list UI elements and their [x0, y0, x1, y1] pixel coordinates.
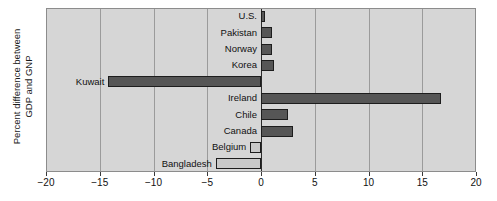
- bar-row: [46, 11, 476, 22]
- x-tick-label-20: 20: [470, 177, 481, 189]
- bar-row: [46, 76, 476, 87]
- bar-korea: [261, 60, 274, 71]
- x-tick-label--10: −10: [145, 177, 162, 189]
- bar-bangladesh: [216, 158, 261, 169]
- x-tick--5: [207, 172, 208, 176]
- x-tick-label--5: −5: [202, 177, 213, 189]
- category-label-canada: Canada: [224, 125, 257, 137]
- bar-canada: [261, 126, 293, 137]
- bar-pakistan: [261, 27, 272, 38]
- x-tick--10: [154, 172, 155, 176]
- category-label-korea: Korea: [232, 59, 257, 71]
- bar-row: [46, 142, 476, 153]
- x-tick-label--15: −15: [91, 177, 108, 189]
- category-label-norway: Norway: [225, 43, 257, 55]
- category-label-ireland: Ireland: [228, 92, 257, 104]
- x-tick-0: [261, 172, 262, 176]
- y-axis-title: Percent difference between GDP and GNP: [0, 0, 46, 172]
- x-tick-5: [315, 172, 316, 176]
- bar-chile: [261, 109, 288, 120]
- x-tick-label--20: −20: [38, 177, 55, 189]
- bar-u-s: [261, 11, 265, 22]
- bar-row: [46, 27, 476, 38]
- bar-row: [46, 93, 476, 104]
- x-tick-15: [422, 172, 423, 176]
- x-tick-label-15: 15: [417, 177, 428, 189]
- bar-chart: Percent difference between GDP and GNP U…: [0, 0, 497, 201]
- bar-row: [46, 158, 476, 169]
- category-label-pakistan: Pakistan: [221, 27, 257, 39]
- category-label-u-s: U.S.: [239, 10, 257, 22]
- bar-belgium: [250, 142, 261, 153]
- x-tick-label-0: 0: [258, 177, 264, 189]
- x-tick-label-5: 5: [312, 177, 318, 189]
- bar-row: [46, 60, 476, 71]
- x-tick-10: [369, 172, 370, 176]
- bar-kuwait: [108, 76, 261, 87]
- x-tick-label-10: 10: [363, 177, 374, 189]
- y-axis-title-line-2: GDP and GNP: [23, 55, 34, 117]
- y-axis-title-line-1: Percent difference between: [12, 28, 23, 143]
- bar-norway: [261, 44, 272, 55]
- bar-row: [46, 44, 476, 55]
- category-label-kuwait: Kuwait: [76, 76, 105, 88]
- category-label-bangladesh: Bangladesh: [162, 158, 212, 170]
- x-tick--20: [46, 172, 47, 176]
- category-label-belgium: Belgium: [212, 141, 246, 153]
- bar-row: [46, 109, 476, 120]
- x-tick--15: [100, 172, 101, 176]
- bar-ireland: [261, 93, 441, 104]
- x-axis-labels: −20−15−10−505101520: [46, 177, 476, 193]
- category-label-chile: Chile: [235, 109, 257, 121]
- plot-area: U.S.PakistanNorwayKoreaKuwaitIrelandChil…: [46, 8, 476, 172]
- bar-row: [46, 126, 476, 137]
- x-tick-20: [476, 172, 477, 176]
